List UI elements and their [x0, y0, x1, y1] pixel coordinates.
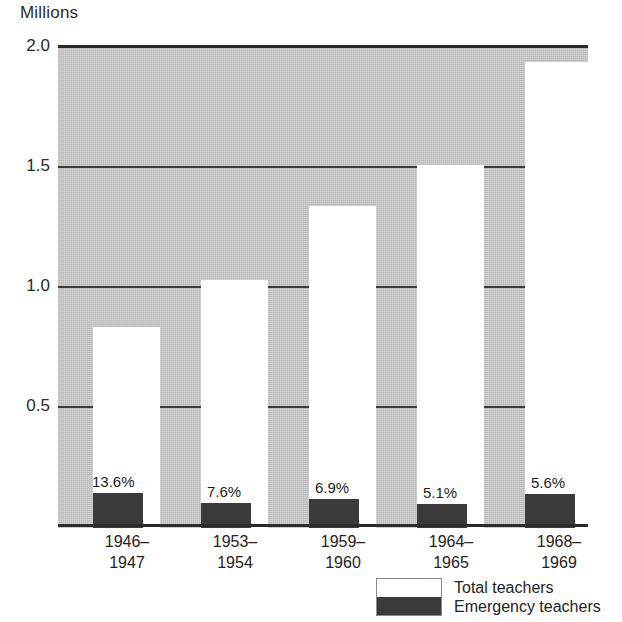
y-tick-1-5: 1.5 [6, 156, 50, 176]
y-axis-tick-group: 2.0 1.5 1.0 0.5 [0, 0, 50, 622]
bar-label-4: 5.6% [531, 474, 565, 491]
bar-emergency-4[interactable] [525, 494, 575, 528]
legend-label-total: Total teachers [454, 578, 601, 597]
x-category-4-line-1: 1968– [512, 531, 606, 552]
x-category-1-line-1: 1953– [188, 531, 282, 552]
x-category-0-line-2: 1947 [80, 552, 174, 573]
x-category-0-line-1: 1946– [80, 531, 174, 552]
legend-label-group: Total teachers Emergency teachers [454, 578, 601, 616]
bar-group-3[interactable]: 5.1% [417, 48, 484, 528]
bar-group-4[interactable]: 5.6% [525, 48, 592, 528]
bar-group-2[interactable]: 6.9% [309, 48, 376, 528]
x-category-2-line-2: 1960 [296, 552, 390, 573]
x-category-3-line-2: 1965 [404, 552, 498, 573]
y-tick-2-0: 2.0 [6, 36, 50, 56]
legend-swatch-emergency [377, 597, 441, 615]
bar-total-4[interactable] [525, 62, 592, 528]
y-tick-0-5: 0.5 [6, 396, 50, 416]
bar-total-3[interactable] [417, 165, 484, 528]
bar-emergency-0[interactable] [93, 493, 143, 528]
bar-label-0: 13.6% [92, 473, 135, 490]
x-category-3-line-1: 1964– [404, 531, 498, 552]
x-axis-label-row: 1946– 1947 1953– 1954 1959– 1960 1964– 1… [58, 531, 588, 577]
x-category-3: 1964– 1965 [404, 531, 498, 573]
x-category-4: 1968– 1969 [512, 531, 606, 573]
y-tick-1-0: 1.0 [6, 276, 50, 296]
bar-group-0[interactable]: 13.6% [93, 48, 160, 528]
bar-label-3: 5.1% [423, 484, 457, 501]
legend-label-emergency: Emergency teachers [454, 597, 601, 616]
x-category-0: 1946– 1947 [80, 531, 174, 573]
bar-chart-figure: Millions 2.0 1.5 1.0 0.5 13.6% 7.6% 6.9% [0, 0, 622, 622]
x-axis-baseline [58, 524, 588, 527]
legend: Total teachers Emergency teachers [376, 578, 601, 616]
x-category-2-line-1: 1959– [296, 531, 390, 552]
plot-area: 13.6% 7.6% 6.9% 5.1% 5.6% [58, 45, 588, 528]
bar-label-2: 6.9% [315, 479, 349, 496]
x-category-4-line-2: 1969 [512, 552, 606, 573]
x-category-2: 1959– 1960 [296, 531, 390, 573]
legend-swatch [376, 578, 442, 616]
x-category-1-line-2: 1954 [188, 552, 282, 573]
bar-label-1: 7.6% [207, 483, 241, 500]
bar-group-1[interactable]: 7.6% [201, 48, 268, 528]
x-category-1: 1953– 1954 [188, 531, 282, 573]
